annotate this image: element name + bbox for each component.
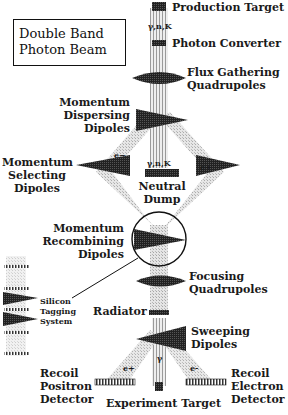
label-line: Detector: [231, 393, 285, 406]
label-dispersing-dipoles: Momentum Dispersing Dipoles: [52, 96, 130, 135]
label-line: Dump: [138, 193, 186, 206]
label-line: Neutral: [138, 180, 186, 193]
label-recoil-electron-detector: Recoil Electron Detector: [231, 367, 285, 406]
recoil-positron-detector: [95, 379, 135, 385]
photon-converter: [152, 40, 166, 46]
label-line: Flux Gathering: [187, 66, 280, 79]
tagging-plane: [4, 308, 30, 311]
label-production-target: Production Target: [172, 1, 284, 14]
label-recombining-dipoles: Momentum Recombining Dipoles: [38, 222, 124, 261]
label-focusing-quads: Focusing Quadrupoles: [189, 270, 268, 296]
recoil-electron-detector: [186, 379, 226, 385]
label-line: Momentum: [52, 96, 130, 109]
label-photon-converter: Photon Converter: [172, 37, 281, 50]
title-line: Double Band: [19, 26, 125, 42]
label-line: Tagging: [40, 306, 76, 316]
flux-quadrupole-lens: [132, 72, 186, 84]
label-line: Selecting: [2, 169, 72, 182]
label-line: Dispersing: [52, 109, 130, 122]
label-line: System: [40, 316, 76, 326]
label-line: Positron: [40, 380, 94, 393]
label-gamma-bottom: γ: [157, 353, 162, 363]
production-target: [152, 2, 166, 11]
photon-beam-lower: [152, 318, 166, 386]
label-particles-top: γ,n,K: [148, 21, 172, 31]
title-line: Photon Beam: [19, 42, 125, 58]
neutral-dump: [145, 169, 179, 177]
label-neutral-dump: Neutral Dump: [138, 180, 186, 206]
focusing-quadrupole-lens: [136, 276, 186, 287]
label-experiment-target: Experiment Target: [106, 397, 221, 410]
label-line: Focusing: [189, 270, 268, 283]
label-line: Recoil: [40, 367, 94, 380]
tagging-plane: [4, 352, 30, 355]
label-line: Dipoles: [191, 338, 250, 351]
label-line: Momentum: [38, 222, 124, 235]
label-e-minus-bottom: e-: [190, 363, 198, 373]
label-recoil-positron-detector: Recoil Positron Detector: [40, 367, 94, 406]
label-line: Quadrupoles: [189, 283, 268, 296]
radiator: [149, 310, 169, 315]
label-line: Dipoles: [52, 122, 130, 135]
label-selecting-dipoles: Momentum Selecting Dipoles: [2, 156, 72, 195]
label-line: Sweeping: [191, 325, 250, 338]
label-line: Dipoles: [38, 248, 124, 261]
label-line: Dipoles: [2, 182, 72, 195]
label-line: Momentum: [2, 156, 72, 169]
label-e-plus-bottom: e+: [123, 363, 135, 373]
label-line: Quadrupoles: [187, 79, 280, 92]
label-sweeping-dipoles: Sweeping Dipoles: [191, 325, 250, 351]
label-e-minus: e−: [114, 150, 126, 160]
tagging-plane: [4, 265, 30, 268]
tagging-plane: [4, 287, 30, 290]
label-silicon-tagging: Silicon Tagging System: [40, 296, 76, 326]
experiment-target: [155, 382, 163, 391]
label-line: Silicon: [40, 296, 76, 306]
label-line: Recoil: [231, 367, 285, 380]
label-line: Electron: [231, 380, 285, 393]
label-radiator: Radiator: [93, 305, 147, 318]
label-e-plus: e+: [200, 162, 212, 172]
label-line: Recombining: [38, 235, 124, 248]
callout-line: [72, 258, 138, 298]
tagging-inset-beam: [6, 256, 26, 356]
diagram-title: Double Band Photon Beam: [13, 19, 126, 66]
label-flux-quads: Flux Gathering Quadrupoles: [187, 66, 280, 92]
label-particles-mid: γ,n,K: [147, 158, 171, 168]
label-line: Detector: [40, 393, 94, 406]
tagging-plane: [4, 331, 30, 334]
neutral-beam-upper: [150, 8, 168, 168]
